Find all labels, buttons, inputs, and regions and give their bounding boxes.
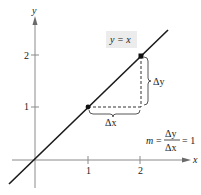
x-tick-1: 1	[86, 165, 91, 176]
delta-x-brace-icon	[89, 110, 140, 117]
delta-y-label: Δy	[153, 76, 164, 87]
x-axis-label: x	[192, 154, 198, 165]
x-tick-2: 2	[138, 165, 143, 176]
y-axis-label: y	[31, 5, 37, 16]
x-axis	[12, 156, 191, 164]
slope-equals: =	[156, 135, 162, 146]
delta-y-brace-icon	[144, 57, 151, 105]
equation-label: y = x	[109, 34, 131, 45]
delta-x-label: Δx	[105, 117, 116, 128]
y-tick-1: 1	[24, 101, 29, 112]
slope-diagram: y x 1 2 1 2 y = x Δy Δx m = Δy Δx = 1	[0, 0, 201, 195]
slope-m: m	[146, 135, 153, 146]
x-axis-arrow-icon	[182, 158, 191, 163]
y-axis-arrow-icon	[33, 16, 38, 25]
y-tick-2: 2	[24, 50, 29, 61]
point-1-1	[86, 105, 91, 110]
slope-value: = 1	[182, 135, 195, 146]
slope-numerator: Δy	[165, 128, 176, 139]
point-2-2	[139, 54, 144, 59]
slope-denominator: Δx	[165, 142, 176, 153]
slope-formula: m = Δy Δx = 1	[146, 128, 195, 153]
